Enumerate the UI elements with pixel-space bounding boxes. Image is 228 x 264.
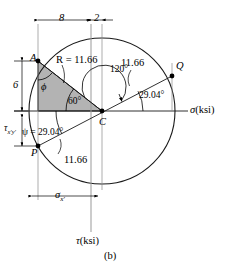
angle-60-label: 60° bbox=[68, 97, 81, 107]
figure-caption: (b) bbox=[104, 251, 116, 262]
tau-axis-label: τ(ksi) bbox=[76, 236, 99, 247]
dim-8-label: 8 bbox=[59, 13, 64, 24]
angle-120-arc-tip bbox=[119, 94, 122, 102]
point-a-label: A bbox=[30, 53, 36, 64]
sigma-axis-unit: (ksi) bbox=[195, 104, 214, 115]
angle-29-right-label: 29.04° bbox=[139, 91, 164, 101]
angle-120-label: 120° bbox=[110, 65, 128, 75]
leader-chord-p bbox=[58, 139, 61, 154]
tau-axis-unit: (ksi) bbox=[80, 235, 99, 246]
point-q-marker bbox=[170, 74, 175, 79]
point-p-label: P bbox=[31, 148, 37, 159]
tau-xy-dimension-label: τx′y′ bbox=[4, 124, 16, 135]
sigma-subscript: x′ bbox=[60, 195, 65, 203]
sigma-x-dimension-label: σx′ bbox=[55, 190, 65, 203]
radius-label: R = 11.66 bbox=[56, 55, 97, 66]
tau-subscript: x′y′ bbox=[7, 128, 16, 135]
dim-2-label: 2 bbox=[94, 13, 99, 24]
angle-phi-label: ϕ bbox=[41, 82, 46, 93]
angle-psi-label: ψ = 29.04° bbox=[22, 128, 63, 138]
sigma-axis-label: σ(ksi) bbox=[190, 105, 214, 116]
point-c-label: C bbox=[99, 117, 106, 128]
leader-chord-q bbox=[128, 70, 131, 86]
point-q-label: Q bbox=[176, 61, 184, 72]
dim-6-label: 6 bbox=[13, 80, 18, 91]
point-c-marker bbox=[100, 109, 105, 114]
chord-p-label: 11.66 bbox=[64, 155, 87, 166]
mohrs-circle-figure: 8 2 6 A Q P C R = 11.66 11.66 11.66 120°… bbox=[0, 0, 228, 264]
